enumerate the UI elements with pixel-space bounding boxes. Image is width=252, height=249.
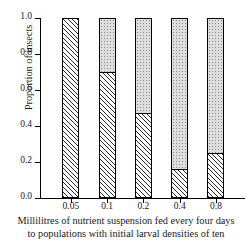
- y-axis-tick: 0.6: [35, 90, 41, 91]
- y-axis-tick-label: 0.4: [20, 119, 32, 129]
- y-axis-tick-label: 0.2: [20, 155, 32, 165]
- stacked-bar: [99, 18, 116, 198]
- y-axis-tick: 0.2: [35, 162, 41, 163]
- caption-line-1: Millilitres of nutrient suspension fed e…: [0, 214, 252, 227]
- bar-segment-hatched: [136, 113, 151, 197]
- x-axis-tick-label: 0.1: [87, 201, 127, 211]
- y-axis-tick-label: 0.0: [20, 191, 32, 201]
- bar-segment-hatched: [63, 19, 78, 197]
- y-axis-line: [40, 18, 41, 198]
- x-axis-tick-label: 0.4: [160, 201, 200, 211]
- bar-segment-hatched: [208, 153, 223, 198]
- x-axis-tick-label: 0.8: [196, 201, 236, 211]
- plot-area: 1.00.80.60.40.20.0 0.050.10.20.40.8: [40, 18, 245, 198]
- bar-segment-stippled: [136, 19, 151, 113]
- bar-segment-stippled: [172, 19, 187, 169]
- y-axis-tick: 0.4: [35, 126, 41, 127]
- stacked-bar-chart-figure: Proportion of insects 1.00.80.60.40.20.0…: [0, 0, 252, 249]
- y-axis-title: Proportion of insects: [23, 0, 34, 158]
- y-axis-tick-label: 0.8: [20, 47, 32, 57]
- stacked-bar: [207, 18, 224, 198]
- y-axis-tick-label: 0.6: [20, 83, 32, 93]
- stacked-bar: [171, 18, 188, 198]
- stacked-bar: [62, 18, 79, 198]
- x-axis-caption: Millilitres of nutrient suspension fed e…: [0, 214, 252, 240]
- y-axis-tick: 0.0: [35, 198, 41, 199]
- y-axis-tick: 1.0: [35, 18, 41, 19]
- y-axis-tick: 0.8: [35, 54, 41, 55]
- y-axis-tick-label: 1.0: [20, 11, 32, 21]
- caption-line-2: to populations with initial larval densi…: [0, 227, 252, 240]
- x-axis-tick-label: 0.2: [123, 201, 163, 211]
- bar-segment-stippled: [208, 19, 223, 153]
- bar-segment-hatched: [172, 169, 187, 197]
- bar-segment-hatched: [100, 72, 115, 197]
- stacked-bar: [135, 18, 152, 198]
- x-axis-tick-label: 0.05: [51, 201, 91, 211]
- bar-segment-stippled: [100, 19, 115, 72]
